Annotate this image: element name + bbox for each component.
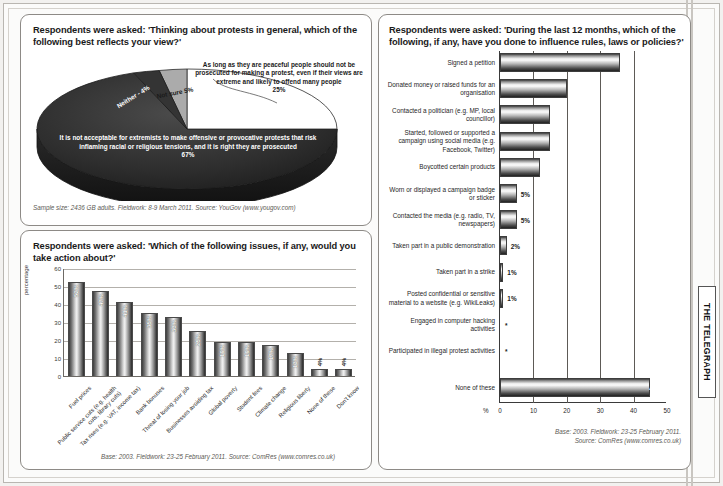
- column-bar-value: 19%: [219, 345, 225, 357]
- hbar-category-label: Contacted the media (e.g. radio, TV, new…: [387, 211, 495, 227]
- hbar-row: *Engaged in computer hacking activities: [500, 315, 667, 334]
- hbar-bar: [500, 105, 550, 124]
- hbar-value-label: 1%: [507, 269, 516, 276]
- hbar-value-label: 12%: [649, 164, 662, 171]
- column-bar-value: 17%: [268, 349, 274, 361]
- column-bar-value: 52%: [73, 286, 79, 298]
- hbar-value-label: *: [505, 321, 508, 328]
- column-y-tick-60: 60: [54, 266, 61, 272]
- hbar-chart: % 0102030405036%Signed a petition20%Dona…: [387, 51, 685, 423]
- hbar-row: 1%Posted confidential or sensitive mater…: [500, 289, 667, 308]
- hbar-row: 2%Taken part in a public demonstration: [500, 236, 667, 255]
- hbar-x-tick-40: 40: [630, 407, 637, 414]
- hbar-bar: [500, 378, 650, 397]
- hbar-row: *Participated in illegal protest activit…: [500, 341, 667, 360]
- column-bar: 41%: [116, 302, 133, 376]
- hbar-x-tick-20: 20: [563, 407, 570, 414]
- hbar-category-label: Participated in illegal protest activiti…: [387, 347, 495, 355]
- hbar-x-tick-10: 10: [530, 407, 537, 414]
- hbar-bar: [500, 79, 567, 98]
- hbar-value-label: 36%: [649, 59, 662, 66]
- hbar-value-label: 5%: [521, 190, 530, 197]
- hbar-category-label: Engaged in computer hacking activities: [387, 316, 495, 332]
- column-bar: 4%: [335, 369, 352, 376]
- column-bar-value: 19%: [244, 345, 250, 357]
- hbar-source-note: Base: 2003. Fieldwork: 23-25 February 20…: [419, 428, 681, 445]
- hbar-row: 36%Signed a petition: [500, 53, 667, 72]
- hbar-bar: [500, 158, 540, 177]
- hbar-bar: [500, 210, 517, 229]
- hbar-value-label: 15%: [649, 111, 662, 118]
- hbar-row: 45%None of these: [500, 378, 667, 397]
- column-y-tick-30: 30: [54, 320, 61, 326]
- hbar-category-label: None of these: [387, 383, 495, 391]
- pie-question-heading: Respondents were asked: 'Thinking about …: [33, 24, 363, 49]
- hbar-bar: [500, 289, 503, 308]
- column-bar-value: 41%: [122, 305, 128, 317]
- column-chart: percentage 010203040506052%Fuel prices47…: [29, 265, 365, 455]
- telegraph-masthead-badge: THE TELEGRAPH: [698, 286, 716, 398]
- column-bar: 4%: [311, 369, 328, 376]
- page-spine-line-a: [691, 0, 693, 486]
- column-bar: 47%: [92, 291, 109, 376]
- column-y-tick-40: 40: [54, 302, 61, 308]
- hbar-chart-plot-area: 0102030405036%Signed a petition20%Donate…: [499, 51, 666, 403]
- pie-source-note: Sample size: 2436 GB adults. Fieldwork: …: [33, 204, 363, 213]
- hbar-row: 5%Contacted the media (e.g. radio, TV, n…: [500, 210, 667, 229]
- column-bar: 19%: [238, 342, 255, 376]
- hbar-category-label: Contacted a politician (e.g. MP, local c…: [387, 107, 495, 123]
- hbar-category-label: Started, followed or supported a campaig…: [387, 129, 495, 154]
- column-y-tick-0: 0: [58, 374, 61, 380]
- column-gridline: [64, 287, 356, 288]
- panel-protest-views: Respondents were asked: 'Thinking about …: [20, 14, 372, 226]
- hbar-category-label: Worn or displayed a campaign badge or st…: [387, 185, 495, 201]
- telegraph-masthead-text: THE TELEGRAPH: [702, 303, 712, 381]
- column-bar: 35%: [141, 313, 158, 376]
- hbar-category-label: Donated money or raised funds for an org…: [387, 80, 495, 96]
- infographic-page: Respondents were asked: 'Thinking about …: [0, 0, 723, 486]
- column-chart-plot-area: 010203040506052%Fuel prices47%Public ser…: [63, 269, 355, 377]
- hbar-row: 15%Started, followed or supported a camp…: [500, 132, 667, 151]
- column-y-tick-20: 20: [54, 338, 61, 344]
- panel-issues-action: Respondents were asked: 'Which of the fo…: [20, 230, 372, 470]
- pie-label-67-percent: It is not acceptable for extremists to m…: [55, 134, 321, 160]
- column-bar-value: 13%: [292, 356, 298, 368]
- column-source-note: Base: 2003. Fieldwork: 23-25 February 20…: [73, 453, 363, 462]
- hbar-x-tick-0: 0: [498, 407, 502, 414]
- pie-callout-25-percent: As long as they are peaceful people shou…: [195, 61, 363, 95]
- column-gridline: [64, 269, 356, 270]
- hbar-x-tick-30: 30: [597, 407, 604, 414]
- hbar-category-label: Taken part in a public demonstration: [387, 242, 495, 250]
- hbar-axis-unit-label: %: [483, 407, 489, 414]
- column-bar-value: 4%: [317, 358, 323, 367]
- hbar-value-label: 1%: [507, 295, 516, 302]
- hbar-row: 1%Taken part in a strike: [500, 263, 667, 282]
- column-y-tick-10: 10: [54, 356, 61, 362]
- hbar-category-label: Boycotted certain products: [387, 163, 495, 171]
- pie-chart: As long as they are peaceful people shou…: [27, 51, 367, 201]
- column-bar: 33%: [165, 317, 182, 376]
- hbar-x-tick-50: 50: [663, 407, 670, 414]
- column-y-tick-50: 50: [54, 284, 61, 290]
- hbar-bar: [500, 53, 620, 72]
- hbar-row: 12%Boycotted certain products: [500, 158, 667, 177]
- hbar-bar: [500, 184, 517, 203]
- hbar-value-label: 15%: [649, 138, 662, 145]
- column-bar: 13%: [287, 353, 304, 376]
- column-question-heading: Respondents were asked: 'Which of the fo…: [33, 240, 363, 265]
- hbar-value-label: 45%: [649, 384, 662, 391]
- hbar-bar: [500, 263, 503, 282]
- column-bar: 52%: [68, 282, 85, 376]
- column-bar-value: 47%: [98, 295, 104, 307]
- column-bar-value: 4%: [341, 358, 347, 367]
- hbar-value-label: 2%: [511, 242, 520, 249]
- hbar-row: 15%Contacted a politician (e.g. MP, loca…: [500, 105, 667, 124]
- hbar-bar: [500, 132, 550, 151]
- column-bar: 25%: [189, 331, 206, 376]
- column-bar-value: 35%: [146, 316, 152, 328]
- column-bar: 19%: [214, 342, 231, 376]
- hbar-value-label: 5%: [521, 216, 530, 223]
- hbar-value-label: 20%: [649, 85, 662, 92]
- hbar-value-label: *: [505, 347, 508, 354]
- hbar-category-label: Signed a petition: [387, 58, 495, 66]
